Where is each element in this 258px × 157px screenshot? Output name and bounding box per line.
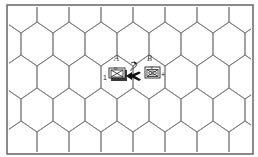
hex-cell <box>85 22 117 66</box>
unit-b-side-mark: + <box>161 71 165 78</box>
hex-cell <box>37 55 69 99</box>
hex-cell <box>69 121 101 157</box>
hex-cell <box>101 121 133 157</box>
hex-label-a: A <box>113 54 119 63</box>
hex-cell <box>0 88 21 132</box>
unit-size-marker: III <box>114 66 117 71</box>
hex-cell <box>181 22 213 66</box>
hex-cell <box>197 55 229 99</box>
hex-cell <box>21 22 53 66</box>
hex-cell <box>165 55 197 99</box>
hex-cell <box>0 55 5 99</box>
hex-cell <box>5 55 37 99</box>
unit-a-side-mark: 1 <box>103 74 107 81</box>
hex-cell <box>245 22 258 66</box>
hex-cell <box>245 88 258 132</box>
hex-cell <box>133 121 165 157</box>
unit-counter-b[interactable]: II + <box>145 65 165 78</box>
hex-cell <box>213 88 245 132</box>
hex-cell <box>0 22 21 66</box>
hex-cell <box>85 88 117 132</box>
hex-map-diagram: A B III 1 II + <box>0 0 258 157</box>
hex-cell <box>181 88 213 132</box>
hex-cell <box>21 88 53 132</box>
hex-grid <box>0 0 258 157</box>
hex-cell <box>0 0 5 33</box>
unit-counter-a[interactable]: III 1 <box>103 66 127 82</box>
hex-cell <box>149 88 181 132</box>
hex-cell <box>197 121 229 157</box>
hex-cell <box>165 121 197 157</box>
hex-cell <box>53 22 85 66</box>
hex-cell <box>149 22 181 66</box>
hex-cell <box>5 121 37 157</box>
hex-cell <box>53 88 85 132</box>
hex-cell <box>0 121 5 157</box>
hex-cell <box>69 55 101 99</box>
hex-label-b: B <box>147 54 152 63</box>
hex-cell <box>117 88 149 132</box>
map-frame <box>7 5 253 154</box>
unit-size-marker: II <box>151 65 153 70</box>
hex-cell <box>117 22 149 66</box>
movement-arrow-icon <box>126 72 141 82</box>
rotation-arrow-icon <box>131 62 137 72</box>
hex-cell <box>37 121 69 157</box>
hex-cell <box>213 22 245 66</box>
